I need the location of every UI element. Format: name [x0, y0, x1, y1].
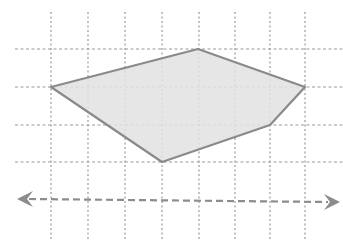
number-line-shaft [29, 199, 328, 202]
pentagon-shape [51, 49, 305, 162]
diagram-canvas [0, 0, 343, 248]
dashed-number-line [17, 191, 340, 210]
